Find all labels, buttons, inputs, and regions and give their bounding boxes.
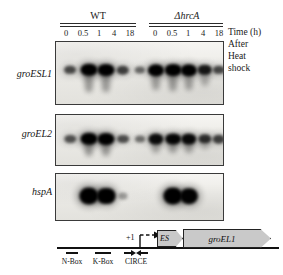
timepoint-hrca-0: 0 <box>147 28 163 38</box>
side-caption-line-3: Heat <box>228 51 246 63</box>
side-caption-line-4: shock <box>228 63 250 75</box>
gene-label-groel2: groEL2 <box>0 128 52 139</box>
timepoint-wt-0.5: 0.5 <box>74 28 92 38</box>
timepoint-hrca-18: 18 <box>211 28 227 38</box>
timepoint-hrca-1: 1 <box>181 28 195 38</box>
band <box>213 66 224 74</box>
motif-label-circe: CIRCE <box>119 257 153 266</box>
timepoint-hrca-4: 4 <box>195 28 211 38</box>
group-rule-hrca <box>149 23 223 24</box>
gene-arrow-es-label: ES <box>160 234 169 243</box>
motif-label-n-box: N-Box <box>55 257 89 266</box>
motif-label-k-box: K-Box <box>86 257 120 266</box>
timepoint-hrca-0.5: 0.5 <box>163 28 181 38</box>
gene-arrow-groel1: groEL1 <box>183 229 271 248</box>
timepoint-wt-0: 0 <box>58 28 74 38</box>
group-label-hrca-text: ΔhrcA <box>175 10 200 21</box>
gene-label-hspa: hspA <box>0 186 52 197</box>
tss-label: +1 <box>126 233 135 242</box>
timepoint-rule-hrca <box>149 26 223 27</box>
band <box>97 188 116 204</box>
band <box>213 135 224 144</box>
timepoint-wt-18: 18 <box>122 28 138 38</box>
timepoint-rule-wt <box>60 26 136 27</box>
band <box>117 66 129 75</box>
timepoint-row-wt: 0 0.5 1 4 18 <box>58 28 138 38</box>
gene-map-diagram: +1 N-Box K-Box CIRCE ES groEL1 <box>0 225 283 275</box>
band <box>180 188 198 204</box>
band <box>135 136 145 143</box>
blot-panel-groesl1 <box>55 41 224 105</box>
timepoint-wt-4: 4 <box>106 28 122 38</box>
band <box>64 66 76 74</box>
group-label-wt-text: WT <box>90 10 106 21</box>
gene-arrow-groel1-label: groEL1 <box>208 234 235 244</box>
northern-blot-figure: WT ΔhrcA 0 0.5 1 4 18 0 0.5 1 4 18 Time … <box>0 0 283 275</box>
band <box>64 135 76 143</box>
timepoint-row-hrca: 0 0.5 1 4 18 <box>147 28 227 38</box>
band <box>98 133 115 145</box>
blot-panel-groel2 <box>55 114 224 166</box>
group-rule-wt <box>60 23 136 24</box>
band <box>117 135 129 143</box>
group-label-hrca: ΔhrcA <box>147 10 227 21</box>
band <box>98 64 115 76</box>
gene-label-groesl1: groESL1 <box>0 68 52 79</box>
timepoint-wt-1: 1 <box>92 28 106 38</box>
blot-panel-hspa <box>55 173 224 221</box>
side-caption-line-2: After <box>228 39 248 51</box>
side-caption-line-1: Time (h) <box>228 27 261 39</box>
group-label-wt: WT <box>58 10 138 21</box>
